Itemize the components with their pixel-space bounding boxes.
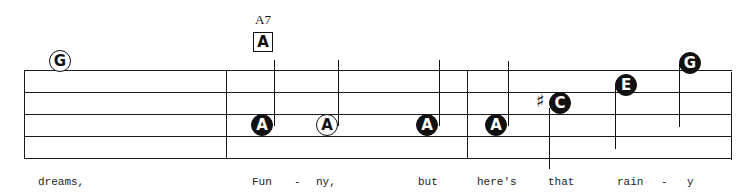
bar-line-end bbox=[731, 72, 732, 160]
note-stem bbox=[549, 108, 550, 169]
staff-line-3 bbox=[24, 114, 732, 115]
lyric-hyphen: - bbox=[661, 176, 668, 188]
chord-box: A bbox=[253, 32, 273, 52]
lyric-syllable: but bbox=[418, 176, 438, 188]
lyric-syllable: that bbox=[548, 176, 574, 188]
lyric-syllable: Fun bbox=[252, 176, 272, 188]
note-g-2: G bbox=[679, 52, 701, 74]
sharp-icon: ♯ bbox=[536, 90, 545, 111]
lyric-syllable: here's bbox=[477, 176, 517, 188]
note-stem bbox=[615, 86, 616, 149]
lyric-syllable: y bbox=[687, 176, 694, 188]
note-e: E bbox=[615, 74, 637, 96]
bar-line-1 bbox=[226, 71, 227, 159]
lyric-hyphen: - bbox=[294, 176, 301, 188]
note-g-1: G bbox=[49, 50, 71, 72]
note-a-3: A bbox=[416, 114, 438, 136]
music-score: A7 A G A A A A ♯ C E G dreams, Fun - ny,… bbox=[0, 0, 745, 196]
note-a-4: A bbox=[485, 114, 507, 136]
lyric-syllable: rain bbox=[617, 176, 643, 188]
lyric-syllable: dreams, bbox=[38, 176, 84, 188]
note-stem bbox=[338, 60, 339, 126]
note-stem bbox=[274, 60, 275, 126]
staff-line-4 bbox=[24, 136, 732, 137]
note-c-sharp: C bbox=[549, 92, 571, 114]
lyric-syllable: ny, bbox=[316, 176, 336, 188]
note-stem bbox=[679, 64, 680, 127]
note-a-2: A bbox=[316, 114, 338, 136]
bar-line-start bbox=[24, 70, 25, 159]
bar-line-2 bbox=[467, 71, 468, 159]
note-stem bbox=[439, 60, 440, 126]
staff-line-5 bbox=[24, 158, 732, 159]
staff-line-1 bbox=[24, 70, 732, 71]
note-stem bbox=[508, 61, 509, 126]
note-a-1: A bbox=[251, 114, 273, 136]
chord-name: A7 bbox=[255, 12, 271, 28]
